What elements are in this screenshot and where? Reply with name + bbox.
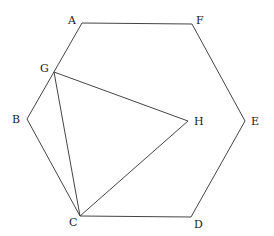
label-A: A (67, 14, 77, 27)
hexagon-ABCDEF (27, 23, 245, 217)
segment-CG (54, 72, 80, 216)
segment-HC (80, 121, 188, 216)
label-E: E (251, 115, 259, 128)
label-C: C (69, 216, 77, 229)
label-G: G (40, 62, 49, 75)
label-D: D (194, 218, 203, 231)
label-F: F (196, 14, 204, 27)
geometry-diagram: A F E D C B G H (0, 0, 274, 236)
label-B: B (12, 113, 20, 126)
label-H: H (194, 115, 204, 128)
segment-GH (54, 72, 188, 121)
